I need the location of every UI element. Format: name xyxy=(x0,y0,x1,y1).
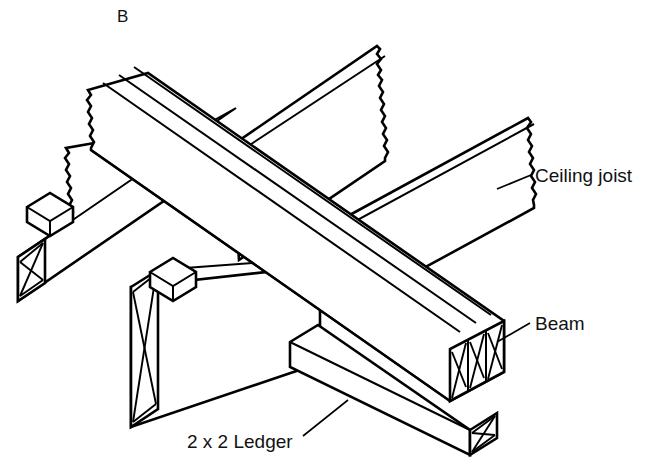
ledger-leader-line xyxy=(303,400,348,436)
ledger-callout: 2 x 2 Ledger xyxy=(187,400,348,452)
joist-beam-isometric-figure: Ceiling joist Beam 2 x 2 Ledger B xyxy=(0,0,657,476)
ceiling-joist-label: Ceiling joist xyxy=(535,165,633,186)
panel-label: B xyxy=(117,7,128,26)
beam-callout: Beam xyxy=(497,313,585,342)
beam-label: Beam xyxy=(535,313,585,334)
ledger-label: 2 x 2 Ledger xyxy=(187,431,293,452)
